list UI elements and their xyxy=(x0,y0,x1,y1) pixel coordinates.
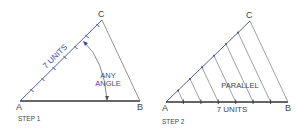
step1-label-c: C xyxy=(98,9,105,19)
step2-units-label: 7 UNITS xyxy=(217,105,248,114)
step1-label-b: B xyxy=(137,102,143,112)
step1-line-bc xyxy=(102,20,140,101)
parallel-label: PARALLEL xyxy=(221,81,258,90)
step2-caption: STEP 2 xyxy=(162,118,185,125)
step1-label-a: A xyxy=(16,102,22,112)
step1-figure: A B C 7 UNITS ANY ANGLE STEP 1 xyxy=(16,9,143,122)
step2-label-b: B xyxy=(285,103,291,113)
step2-label-c: C xyxy=(246,10,253,20)
any-angle-label-2: ANGLE xyxy=(95,79,120,88)
step1-line-ac xyxy=(20,20,102,101)
diagram-canvas: A B C 7 UNITS ANY ANGLE STEP 1 xyxy=(0,0,300,130)
arc-arrowhead-bottom xyxy=(105,96,109,101)
step2-figure: A B C 7 UNITS PARALLEL STEP 2 xyxy=(162,10,291,125)
step1-ticks xyxy=(31,24,100,92)
step1-caption: STEP 1 xyxy=(18,115,41,122)
step2-label-a: A xyxy=(162,103,168,113)
